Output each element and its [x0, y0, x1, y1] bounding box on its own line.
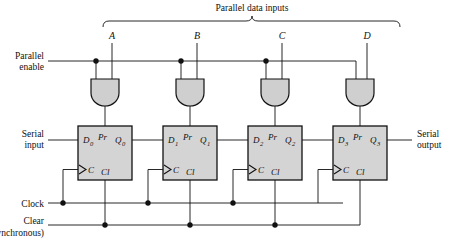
ff3-q-label: Q: [370, 135, 377, 145]
parallel-enable-label-line1: Parallel: [15, 51, 44, 61]
serial-input-label-line2: input: [24, 140, 44, 150]
ff1-pr-label: Pr: [182, 132, 192, 142]
ff0-q-label: Q: [115, 135, 122, 145]
data-input-label-a: A: [108, 30, 116, 41]
serial-output-label-line2: output: [417, 140, 442, 150]
ff1-c-label: C: [173, 165, 180, 175]
parallel-data-inputs-bracket: [103, 16, 400, 27]
logic-diagram-figure: Parallel data inputs A B C D: [0, 0, 453, 246]
ff1-q-label: Q: [200, 135, 207, 145]
ff2-c-label: C: [258, 165, 265, 175]
parallel-enable-label-line2: enable: [19, 62, 44, 72]
ff2-d-label: D: [252, 135, 260, 145]
and-gate-c: [261, 79, 289, 106]
ff1-q-sub: 1: [207, 140, 210, 147]
serial-input-label-line1: Serial: [22, 129, 45, 139]
ff3-c-label: C: [343, 165, 350, 175]
ff3-cl-label: Cl: [356, 167, 365, 177]
and-gate-b: [176, 79, 204, 106]
data-input-label-b: B: [194, 30, 200, 41]
ff3-d-label: D: [337, 135, 345, 145]
wire-clock-to-ff2: [233, 170, 248, 204]
data-input-label-d: D: [362, 30, 371, 41]
serial-output-label-line1: Serial: [417, 129, 440, 139]
wire-clock-to-ff1: [148, 170, 163, 204]
clear-label-line1: Clear: [23, 216, 44, 226]
ff1-d-sub: 1: [175, 140, 178, 147]
clear-label-line2: (asynchronous): [0, 228, 44, 239]
data-input-label-c: C: [279, 30, 286, 41]
ff0-d-label: D: [82, 135, 90, 145]
ff3-pr-label: Pr: [352, 132, 362, 142]
ff0-pr-label: Pr: [97, 132, 107, 142]
wire-clock-to-ff0: [63, 170, 78, 204]
wire-clock-to-ff3: [318, 170, 333, 204]
ff0-cl-label: Cl: [101, 167, 110, 177]
and-gate-d: [346, 79, 374, 106]
ff2-q-label: Q: [285, 135, 292, 145]
bracket-label: Parallel data inputs: [216, 3, 289, 13]
ff2-pr-label: Pr: [267, 132, 277, 142]
ff2-cl-label: Cl: [271, 167, 280, 177]
ff1-d-label: D: [167, 135, 175, 145]
ff0-c-label: C: [88, 165, 95, 175]
circuit-svg: Parallel data inputs A B C D: [0, 0, 453, 246]
clock-label: Clock: [21, 199, 44, 209]
and-gate-a: [91, 79, 119, 106]
ff1-cl-label: Cl: [186, 167, 195, 177]
